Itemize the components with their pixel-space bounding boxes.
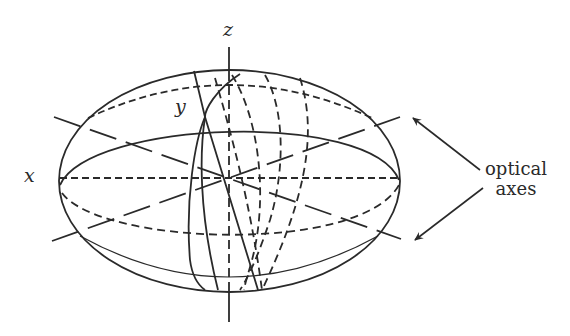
label-y: y — [175, 95, 186, 117]
label-x: x — [24, 164, 35, 186]
meridian-dashed-4 — [215, 78, 262, 290]
meridian-solid-1 — [194, 71, 258, 290]
equator-front — [62, 185, 399, 235]
annotation-line-axes: axes — [476, 179, 556, 199]
arrow-lower — [415, 188, 483, 240]
label-z: z — [223, 18, 233, 40]
meridian-dashed-2 — [240, 75, 281, 290]
meridian-solid-3 — [202, 117, 218, 290]
meridian-solid-2 — [189, 74, 240, 290]
meridian-dashed-3 — [262, 78, 308, 290]
annotation-optical-axes: optical axes — [476, 159, 556, 199]
annotation-line-optical: optical — [476, 159, 556, 179]
arrow-upper — [413, 118, 480, 170]
